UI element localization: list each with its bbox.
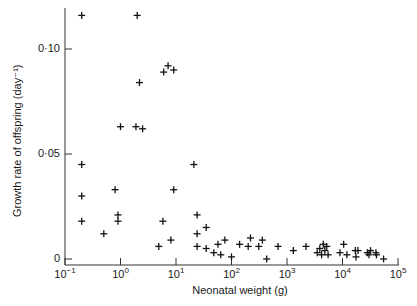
plus-marker-icon [159, 218, 166, 225]
plus-marker-icon [340, 241, 347, 248]
y-tick-label: 0·10 [20, 42, 60, 54]
plus-marker-icon [303, 243, 310, 250]
plus-marker-icon [290, 247, 297, 254]
plus-marker-icon [134, 12, 141, 19]
plus-marker-icon [203, 245, 210, 252]
plus-marker-icon [155, 243, 162, 250]
scatter-plot [0, 0, 417, 306]
plus-marker-icon [247, 235, 254, 242]
plus-marker-icon [136, 79, 143, 86]
plus-marker-icon [160, 69, 167, 76]
plus-marker-icon [255, 243, 262, 250]
plus-marker-icon [100, 230, 107, 237]
plus-marker-icon [210, 249, 217, 256]
plus-marker-icon [217, 251, 224, 258]
plus-marker-icon [228, 253, 235, 260]
plus-marker-icon [78, 12, 85, 19]
plus-marker-icon [221, 237, 228, 244]
plus-marker-icon [325, 251, 332, 258]
plus-marker-icon [78, 161, 85, 168]
y-tick-marks [65, 49, 72, 259]
x-tick-label: 105 [378, 266, 417, 280]
x-tick-label: 10−1 [45, 266, 85, 280]
axes [65, 8, 399, 265]
x-tick-label: 100 [101, 266, 141, 280]
plus-marker-icon [114, 218, 121, 225]
plus-marker-icon [336, 249, 343, 256]
plus-marker-icon [112, 186, 119, 193]
plus-marker-icon [194, 211, 201, 218]
plus-marker-icon [263, 256, 270, 263]
plus-marker-icon [190, 161, 197, 168]
x-tick-label: 102 [212, 266, 252, 280]
data-points [78, 12, 387, 263]
x-tick-label: 101 [156, 266, 196, 280]
plus-marker-icon [203, 224, 210, 231]
plus-marker-icon [245, 243, 252, 250]
x-tick-label: 104 [323, 266, 363, 280]
plus-marker-icon [343, 251, 350, 258]
plus-marker-icon [114, 211, 121, 218]
plus-marker-icon [78, 193, 85, 200]
plus-marker-icon [117, 123, 124, 130]
plus-marker-icon [236, 241, 243, 248]
plus-marker-icon [139, 125, 146, 132]
plus-marker-icon [194, 243, 201, 250]
plus-marker-icon [352, 253, 359, 260]
x-axis-label: Neonatal weight (g) [140, 284, 340, 296]
plus-marker-icon [194, 230, 201, 237]
plus-marker-icon [132, 123, 139, 130]
plus-marker-icon [170, 67, 177, 74]
plus-marker-icon [214, 241, 221, 248]
plus-marker-icon [380, 256, 387, 263]
plus-marker-icon [167, 237, 174, 244]
x-tick-label: 103 [267, 266, 307, 280]
plus-marker-icon [275, 243, 282, 250]
plus-marker-icon [165, 62, 172, 69]
y-tick-label: 0 [20, 252, 60, 264]
plus-marker-icon [78, 218, 85, 225]
plus-marker-icon [170, 186, 177, 193]
y-tick-label: 0·05 [20, 147, 60, 159]
plus-marker-icon [259, 237, 266, 244]
y-axis-label: Growth rate of offspring (day⁻¹) [11, 77, 25, 217]
